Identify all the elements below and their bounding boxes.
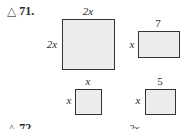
problem-71-number: △71. [7, 5, 34, 17]
rectangle-5-side-label: x [136, 95, 141, 106]
problem-number: 72. [19, 121, 34, 129]
big-square-side-label: 2x [47, 39, 57, 50]
small-square-top-label: x [86, 76, 91, 87]
rectangle-5-top-label: 5 [157, 76, 163, 87]
rectangle-5 [145, 89, 176, 115]
rectangle-7 [138, 31, 180, 58]
triangle-icon: △ [7, 4, 16, 18]
problem-72-partial-label: 2x [129, 123, 139, 129]
small-square [75, 89, 102, 115]
triangle-icon: △ [7, 121, 16, 129]
big-square [62, 19, 115, 70]
small-square-side-label: x [67, 95, 72, 106]
problem-72-number: △72. [7, 122, 34, 129]
rectangle-7-top-label: 7 [155, 18, 161, 29]
problem-number: 71. [19, 4, 34, 18]
rectangle-7-side-label: x [130, 39, 135, 50]
big-square-top-label: 2x [83, 6, 93, 17]
